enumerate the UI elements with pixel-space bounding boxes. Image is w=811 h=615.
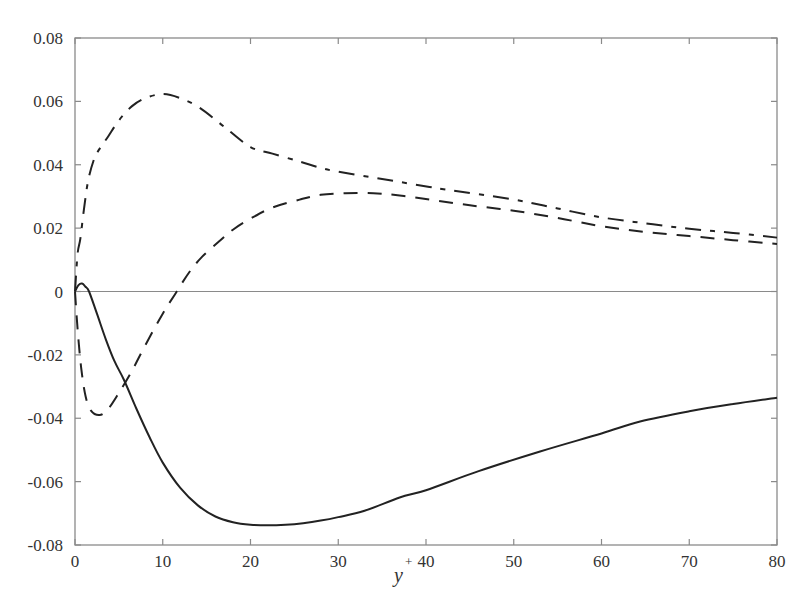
x-tick-label: 70 [681, 552, 698, 571]
x-tick-label: 10 [154, 552, 171, 571]
x-axis-label-text: y [392, 564, 403, 587]
x-tick-label: 80 [769, 552, 786, 571]
y-tick-label: -0.04 [28, 409, 64, 428]
y-tick-label: -0.06 [28, 473, 63, 492]
x-tick-label: 30 [330, 552, 347, 571]
y-tick-label: -0.08 [28, 536, 63, 555]
y-tick-label: 0.06 [33, 92, 63, 111]
y-tick-label: 0.02 [33, 219, 63, 238]
x-tick-label: 0 [71, 552, 80, 571]
y-tick-label: 0.08 [33, 29, 63, 48]
x-axis-label: y + [392, 554, 412, 587]
series-layer [75, 94, 777, 525]
x-tick-label: 40 [418, 552, 435, 571]
y-tick-label: 0 [55, 283, 64, 302]
x-tick-label: 20 [242, 552, 259, 571]
x-tick-label: 50 [505, 552, 522, 571]
series-line-dash-dot [75, 94, 777, 291]
x-axis-label-superscript: + [405, 554, 412, 569]
ticks-layer: 01020304050607080-0.08-0.06-0.04-0.0200.… [28, 29, 786, 571]
x-tick-label: 60 [593, 552, 610, 571]
y-tick-label: -0.02 [28, 346, 63, 365]
y-tick-label: 0.04 [33, 156, 63, 175]
series-line-solid [75, 284, 777, 526]
chart: 01020304050607080-0.08-0.06-0.04-0.0200.… [0, 0, 811, 615]
